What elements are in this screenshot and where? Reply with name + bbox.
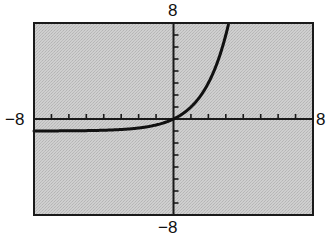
xmin-label: −8 (5, 111, 24, 128)
graph-window (0, 0, 328, 233)
ymax-label: 8 (168, 2, 177, 19)
ymin-label: −8 (158, 219, 177, 233)
xmax-label: 8 (316, 111, 325, 128)
